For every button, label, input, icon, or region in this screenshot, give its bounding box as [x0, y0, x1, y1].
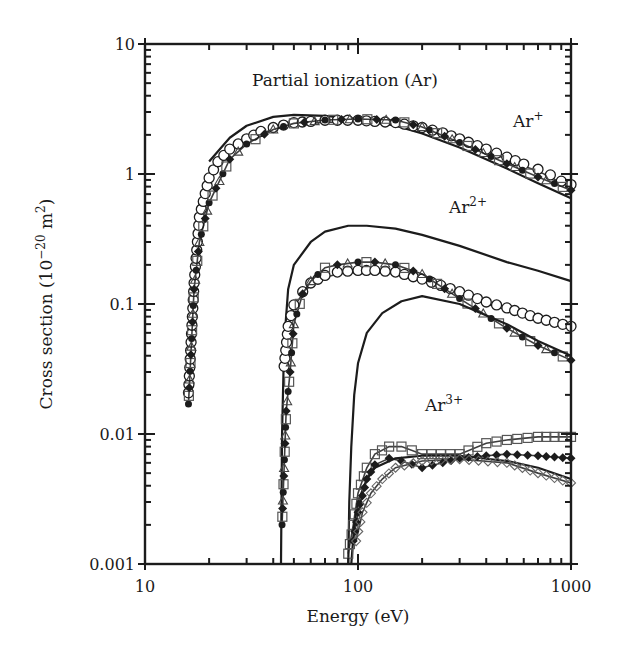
ion-label: Ar+	[512, 109, 543, 131]
series-ar3-theory-low-	[351, 456, 571, 564]
ion-label: Ar2+	[448, 195, 487, 217]
plot-area	[183, 115, 576, 564]
svg-text:Cross section (10−20 m2): Cross section (10−20 m2)	[34, 199, 56, 410]
y-tick-label: 10	[115, 35, 135, 54]
chart-title: Partial ionization (Ar)	[252, 70, 438, 90]
y-tick-label: 1	[125, 165, 135, 184]
chart: 1010010000.0010.010.1110 Partial ionizat…	[0, 0, 620, 653]
annotations: Ar+Ar2+Ar3+	[424, 109, 544, 415]
series-ar3-experiment-open-squares-	[344, 432, 576, 558]
ion-label: Ar3+	[424, 393, 463, 415]
x-tick-label: 100	[343, 577, 374, 596]
x-tick-label: 10	[135, 577, 155, 596]
series-ar2-experiment-filled-squares-	[278, 258, 576, 529]
y-tick-label: 0.001	[89, 555, 135, 574]
y-axis-label: Cross section (10−20 m2)	[34, 199, 56, 410]
series-ar3-theory	[348, 296, 571, 564]
y-tick-label: 0.1	[110, 295, 135, 314]
x-tick-label: 1000	[551, 577, 592, 596]
x-axis-label: Energy (eV)	[306, 606, 409, 626]
y-tick-label: 0.01	[99, 425, 135, 444]
series-ar-experiment-open-circles-	[183, 115, 576, 398]
